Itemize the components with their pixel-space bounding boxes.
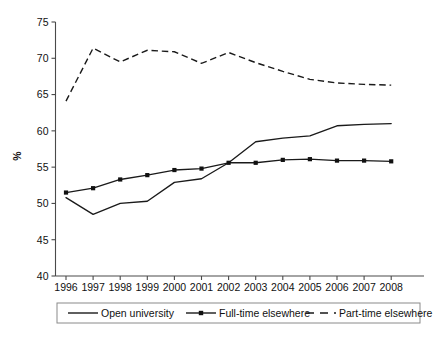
x-axis-tick-labels: 1996199719981999200020012002200320042005… [54,281,403,293]
x-axis-ticks [66,276,391,280]
data-point-marker [199,166,203,170]
data-point-marker [227,161,231,165]
data-point-marker [335,159,339,163]
x-tick-label: 2001 [190,281,214,293]
x-tick-label: 2007 [352,281,376,293]
chart-canvas: 4045505560657075 % 199619971998199920002… [0,0,434,338]
y-axis-title: % [11,151,23,161]
x-tick-label: 1997 [81,281,105,293]
x-tick-label: 2008 [380,281,404,293]
data-point-marker [91,186,95,190]
y-axis-ticks [52,22,56,276]
y-tick-label: 70 [37,52,49,64]
data-point-marker [172,168,176,172]
y-tick-label: 60 [37,125,49,137]
y-tick-label: 75 [37,16,49,28]
series-line-2 [66,48,391,101]
legend-label-1: Full-time elsewhere [219,307,310,319]
data-point-marker [254,161,258,165]
y-tick-label: 50 [37,197,49,209]
caption-strip [22,330,422,338]
data-point-marker [145,173,149,177]
x-tick-label: 2004 [271,281,295,293]
data-point-marker [362,159,366,163]
series-0 [66,124,391,215]
legend-label-2: Part-time elsewhere [339,307,433,319]
series-line-0 [66,124,391,215]
x-tick-label: 2006 [325,281,349,293]
y-axis-group: 4045505560657075 % [11,16,56,282]
y-tick-label: 45 [37,234,49,246]
data-point-marker [281,158,285,162]
legend-label-0: Open university [101,307,175,319]
y-tick-label: 65 [37,88,49,100]
chart-legend: Open universityFull-time elsewherePart-t… [57,303,433,323]
x-tick-label: 1999 [136,281,160,293]
series-2 [66,48,391,101]
series-1 [64,157,393,195]
x-tick-label: 2000 [163,281,187,293]
data-point-marker [308,157,312,161]
x-tick-label: 1996 [54,281,78,293]
x-tick-label: 2002 [217,281,241,293]
legend-entries: Open universityFull-time elsewherePart-t… [68,307,433,319]
y-tick-label: 55 [37,161,49,173]
x-tick-label: 2003 [244,281,268,293]
y-tick-label: 40 [37,270,49,282]
x-tick-label: 2005 [298,281,322,293]
data-series-group [64,48,393,214]
x-tick-label: 1998 [109,281,133,293]
x-axis-group: 1996199719981999200020012002200320042005… [54,276,424,293]
legend-marker-1 [199,311,203,315]
data-point-marker [118,177,122,181]
line-chart-figure: 4045505560657075 % 199619971998199920002… [0,0,434,338]
data-point-marker [389,159,393,163]
data-point-marker [64,190,68,194]
y-axis-tick-labels: 4045505560657075 [37,16,49,282]
